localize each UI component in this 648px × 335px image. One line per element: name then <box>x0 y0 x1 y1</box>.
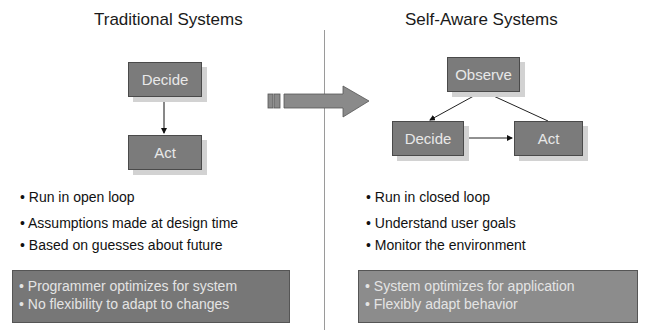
left-act-box: Act <box>128 135 202 170</box>
right-summary-panel: • System optimizes for application • Fle… <box>358 270 638 323</box>
left-summary-panel: • Programmer optimizes for system • No f… <box>12 270 290 323</box>
left-decide-box: Decide <box>128 62 202 97</box>
right-bullet: • Understand user goals <box>366 215 516 231</box>
right-decide-box: Decide <box>392 121 464 156</box>
left-bullet: • Based on guesses about future <box>20 237 223 253</box>
transition-arrow-icon <box>268 86 369 117</box>
right-observe-box: Observe <box>447 57 520 92</box>
right-panel-line: • Flexibly adapt behavior <box>365 295 637 313</box>
left-panel-line: • Programmer optimizes for system <box>19 277 289 295</box>
right-bullet: • Monitor the environment <box>366 237 526 253</box>
left-bullet: • Assumptions made at design time <box>20 215 238 231</box>
right-act-box: Act <box>514 121 583 156</box>
left-bullet: • Run in open loop <box>20 189 135 205</box>
left-panel-line: • No flexibility to adapt to changes <box>19 295 289 313</box>
right-bullet: • Run in closed loop <box>366 189 490 205</box>
right-panel-line: • System optimizes for application <box>365 277 637 295</box>
